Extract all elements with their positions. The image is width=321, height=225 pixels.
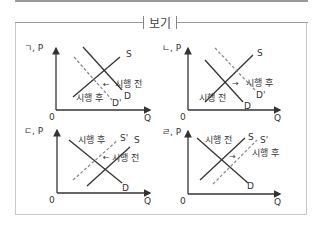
after-label: 시행 후 [252, 147, 279, 158]
graph-digeut: ㄷ, P 0 Q S S' D 시행 전 시행 후 ← [24, 126, 151, 206]
d-prime-label: D' [112, 98, 121, 108]
d-prime-label: D' [256, 90, 265, 100]
s-label: S [126, 49, 132, 59]
origin-label: 0 [180, 112, 186, 122]
graph-giyeok: ㄱ, P 0 Q S D D' 시행 전 시행 후 ← [24, 43, 151, 123]
d-label: D [124, 91, 131, 101]
graph-label: ㄱ, P [24, 43, 44, 53]
after-label: 시행 후 [78, 134, 105, 145]
before-label: 시행 전 [205, 134, 232, 145]
origin-label: 0 [49, 112, 55, 122]
after-label: 시행 후 [76, 92, 103, 103]
d-label: D [244, 101, 251, 111]
before-label: 시행 전 [199, 92, 226, 103]
s-label: S [257, 48, 263, 58]
graph-label: ㄷ, P [24, 126, 44, 136]
graph-label: ㄴ, P [162, 43, 182, 53]
shift-arrow-right-icon: → [229, 152, 236, 161]
d-label: D [122, 183, 129, 193]
shift-arrow-left-icon: ← [103, 80, 110, 89]
shift-arrow-right-icon: → [232, 79, 239, 88]
origin-label: 0 [180, 196, 186, 206]
shift-arrow-left-icon: ← [103, 153, 110, 162]
d-label: D [247, 181, 254, 191]
q-label: Q [144, 113, 151, 123]
graph-nieun: ㄴ, P 0 Q S D D' 시행 전 시행 후 → [162, 43, 281, 123]
s-label: S [134, 135, 140, 145]
s-prime-label: S' [120, 133, 128, 143]
s-prime-label: S' [260, 135, 268, 145]
s-label: S [248, 132, 254, 142]
after-label: 시행 후 [246, 77, 273, 88]
q-label: Q [274, 113, 281, 123]
before-label: 시행 전 [115, 78, 142, 89]
origin-label: 0 [49, 195, 55, 205]
graph-rieul: ㄹ, P 0 Q S S' D 시행 전 시행 후 → [162, 127, 281, 207]
q-label: Q [144, 196, 151, 206]
supply-curve [73, 57, 120, 97]
graph-label: ㄹ, P [162, 127, 182, 137]
before-label: 시행 전 [112, 152, 139, 163]
supply-demand-diagrams: ㄱ, P 0 Q S D D' 시행 전 시행 후 ← ㄴ, P 0 Q S D… [0, 0, 321, 225]
q-label: Q [274, 197, 281, 207]
